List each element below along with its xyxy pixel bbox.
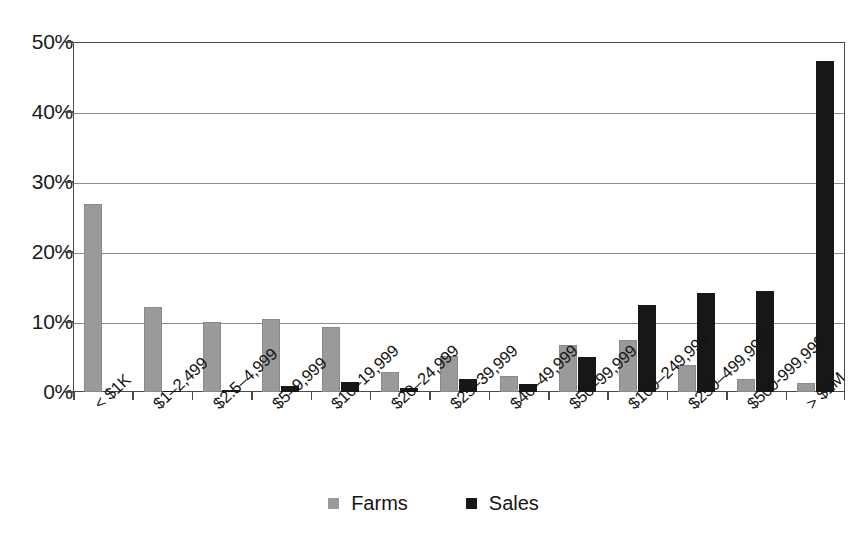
y-tick-mark <box>65 251 73 253</box>
y-tick-mark <box>65 321 73 323</box>
legend-item-sales[interactable]: Sales <box>466 493 539 513</box>
legend-label: Sales <box>489 493 539 513</box>
plot-area <box>73 42 845 392</box>
y-tick-label: 10% <box>13 311 73 332</box>
gridline <box>74 323 844 324</box>
legend-swatch-icon <box>328 498 339 509</box>
y-tick-label: 20% <box>13 241 73 262</box>
chart-legend: FarmsSales <box>0 493 867 513</box>
legend-item-farms[interactable]: Farms <box>328 493 408 513</box>
gridline <box>74 113 844 114</box>
y-tick-label: 30% <box>13 171 73 192</box>
x-axis-labels: < $1K$1–2,499$2.5–4,999$5–9,999$10–19,99… <box>0 392 867 492</box>
legend-swatch-icon <box>466 498 477 509</box>
legend-label: Farms <box>351 493 408 513</box>
gridline <box>74 183 844 184</box>
y-axis: 0%10%20%30%40%50% <box>0 42 73 392</box>
gridline <box>74 253 844 254</box>
y-tick-mark <box>65 111 73 113</box>
y-tick-label: 50% <box>13 31 73 52</box>
y-tick-label: 40% <box>13 101 73 122</box>
y-tick-mark <box>65 181 73 183</box>
y-tick-mark <box>65 41 73 43</box>
bar-chart: 0%10%20%30%40%50% < $1K$1–2,499$2.5–4,99… <box>0 0 867 536</box>
